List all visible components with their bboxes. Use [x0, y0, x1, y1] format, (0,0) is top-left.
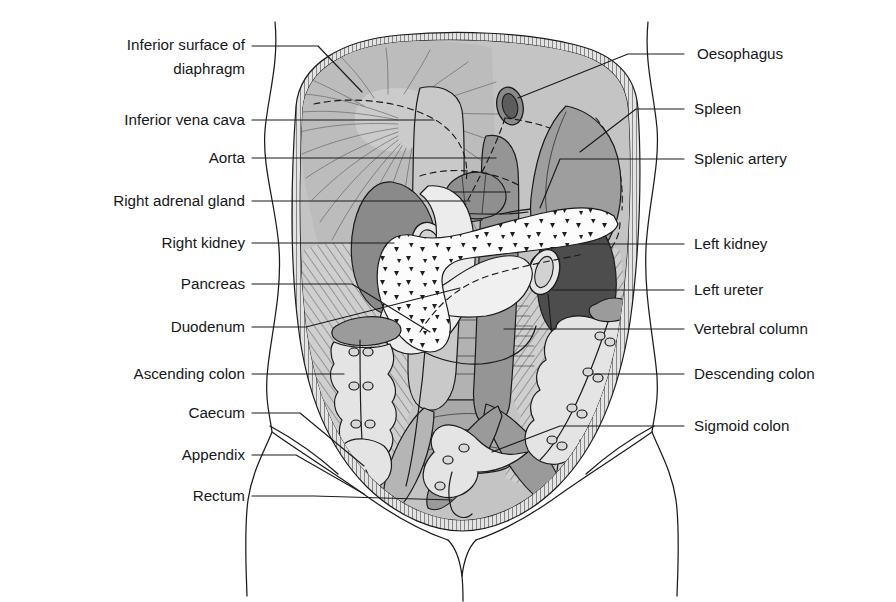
label-ascending-colon: Ascending colon [134, 365, 245, 382]
label-sigmoid-colon: Sigmoid colon [694, 417, 789, 434]
label-left-kidney: Left kidney [694, 235, 768, 252]
label-descending-colon: Descending colon [694, 365, 815, 382]
label-oesophagus: Oesophagus [697, 45, 784, 62]
label-inferior-surface-of-diaphragm-line2: diaphragm [173, 60, 245, 77]
label-rectum: Rectum [193, 487, 245, 504]
label-pancreas: Pancreas [181, 275, 246, 292]
label-vertebral-column: Vertebral column [694, 320, 808, 337]
label-splenic-artery: Splenic artery [694, 150, 787, 167]
label-aorta: Aorta [209, 149, 246, 166]
label-appendix: Appendix [182, 446, 246, 463]
label-spleen: Spleen [694, 100, 741, 117]
label-caecum: Caecum [188, 404, 245, 421]
label-right-kidney: Right kidney [161, 234, 245, 251]
anatomy-diagram: Inferior surface of diaphragm Inferior v… [0, 0, 896, 602]
label-duodenum: Duodenum [171, 318, 245, 335]
label-inferior-surface-of-diaphragm-line1: Inferior surface of [127, 36, 246, 53]
label-left-ureter: Left ureter [694, 281, 763, 298]
label-right-adrenal-gland: Right adrenal gland [113, 192, 245, 209]
label-inferior-vena-cava: Inferior vena cava [124, 111, 245, 128]
